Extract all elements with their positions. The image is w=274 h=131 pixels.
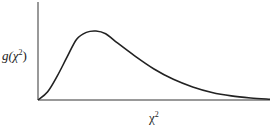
chart-plot <box>0 0 274 131</box>
density-curve <box>38 31 270 100</box>
x-axis-label: χ2 <box>149 110 159 126</box>
y-axis-label: g(χ2) <box>2 48 27 64</box>
